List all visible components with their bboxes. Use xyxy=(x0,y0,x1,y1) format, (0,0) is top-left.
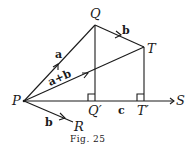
label-vector-a: a xyxy=(55,48,62,61)
segment-PQ xyxy=(24,25,95,101)
label-T: T xyxy=(147,41,157,56)
point-P-dot xyxy=(23,100,26,103)
right-angle-Qprime xyxy=(88,94,95,101)
label-R: R xyxy=(73,119,84,134)
label-vector-b-QT: b xyxy=(122,24,130,37)
label-vector-b-PR: b xyxy=(45,116,53,129)
label-P: P xyxy=(11,93,21,108)
label-T-prime: T′ xyxy=(137,103,149,118)
label-S: S xyxy=(176,93,185,108)
segment-PT xyxy=(24,47,144,101)
vector-diagram: P Q T Q′ T′ S R a b a+b b c Fig. 25 xyxy=(0,0,191,146)
right-angle-Tprime xyxy=(137,94,144,101)
label-Q: Q xyxy=(90,6,101,21)
label-vector-c: c xyxy=(118,104,125,117)
figure-caption: Fig. 25 xyxy=(70,134,106,144)
label-Q-prime: Q′ xyxy=(88,103,102,118)
